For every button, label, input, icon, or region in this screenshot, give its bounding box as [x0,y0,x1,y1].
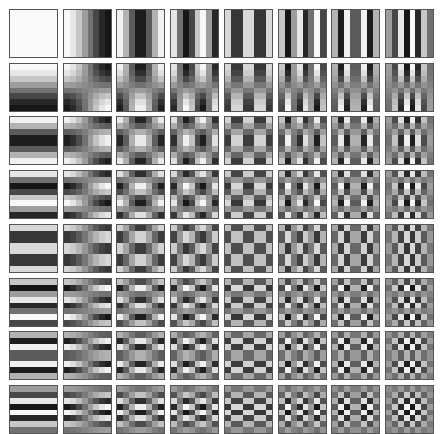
basis-tile-0-2 [116,9,165,58]
basis-tile-1-7 [385,63,434,112]
basis-tile-2-1 [63,116,112,165]
basis-tile-7-0 [9,385,58,434]
basis-tile-2-3 [170,116,219,165]
basis-tile-2-0 [9,116,58,165]
basis-tile-4-3 [170,224,219,273]
basis-tile-1-5 [278,63,327,112]
basis-tile-1-2 [116,63,165,112]
basis-tile-0-0 [9,9,58,58]
basis-tile-7-5 [278,385,327,434]
basis-tile-5-2 [116,278,165,327]
basis-tile-4-7 [385,224,434,273]
basis-tile-6-0 [9,331,58,380]
basis-tile-4-5 [278,224,327,273]
basis-tile-2-5 [278,116,327,165]
basis-tile-6-3 [170,331,219,380]
basis-tile-5-1 [63,278,112,327]
basis-tile-1-0 [9,63,58,112]
basis-tile-6-1 [63,331,112,380]
basis-tile-5-3 [170,278,219,327]
basis-tile-0-1 [63,9,112,58]
basis-tile-5-7 [385,278,434,327]
basis-tile-6-5 [278,331,327,380]
basis-tile-3-2 [116,170,165,219]
basis-tile-7-4 [224,385,273,434]
basis-tile-0-7 [385,9,434,58]
basis-tile-1-3 [170,63,219,112]
basis-tile-3-4 [224,170,273,219]
basis-tile-2-4 [224,116,273,165]
basis-tile-5-6 [331,278,380,327]
basis-tile-5-4 [224,278,273,327]
basis-tile-2-2 [116,116,165,165]
basis-tile-5-5 [278,278,327,327]
basis-tile-2-7 [385,116,434,165]
basis-tile-7-1 [63,385,112,434]
basis-tile-4-2 [116,224,165,273]
basis-tile-7-7 [385,385,434,434]
basis-tile-4-4 [224,224,273,273]
basis-tile-0-6 [331,9,380,58]
basis-tile-0-3 [170,9,219,58]
basis-tile-4-6 [331,224,380,273]
basis-tile-0-5 [278,9,327,58]
basis-tile-6-7 [385,331,434,380]
basis-tile-3-3 [170,170,219,219]
basis-tile-0-4 [224,9,273,58]
basis-tile-4-1 [63,224,112,273]
basis-tile-4-0 [9,224,58,273]
basis-tile-3-7 [385,170,434,219]
basis-tile-7-3 [170,385,219,434]
basis-tile-3-5 [278,170,327,219]
basis-tile-2-6 [331,116,380,165]
basis-tile-1-1 [63,63,112,112]
basis-tile-1-6 [331,63,380,112]
basis-tile-3-1 [63,170,112,219]
basis-tile-6-4 [224,331,273,380]
basis-tile-6-2 [116,331,165,380]
basis-tile-3-0 [9,170,58,219]
basis-tile-5-0 [9,278,58,327]
basis-tile-6-6 [331,331,380,380]
basis-tile-1-4 [224,63,273,112]
basis-tile-7-2 [116,385,165,434]
basis-tile-3-6 [331,170,380,219]
basis-tile-7-6 [331,385,380,434]
